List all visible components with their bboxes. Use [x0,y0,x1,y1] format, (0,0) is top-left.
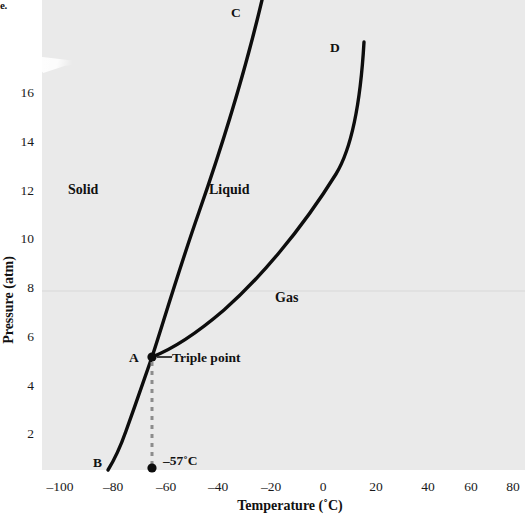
curve-d-vaporization [152,42,364,357]
ytick-label-10: 10 [21,231,35,246]
xtick-label-80: 80 [506,479,520,494]
curve-b-sublimation [108,357,152,470]
ytick-label-2: 2 [27,426,34,441]
triple-point-letter: A [129,350,139,365]
ytick-label-14: 14 [21,134,35,149]
curve-c-fusion [152,0,262,357]
ytick-label-4: 4 [27,378,34,393]
ytick-label-6: 6 [27,329,34,344]
xtick-label-0: 0 [320,479,327,494]
region-label-liquid: Liquid [209,182,250,197]
xtick-label--60: –60 [155,479,177,494]
xtick-label-60: 60 [464,479,478,494]
curve-label-b: B [93,455,102,470]
phase-diagram-svg: 16 14 12 10 8 6 4 2 Pressure (atm) –100 … [0,0,525,514]
region-label-solid: Solid [68,182,99,197]
triple-point-marker [147,352,156,361]
triple-point-axis-marker [147,463,156,472]
curve-label-d: D [330,40,340,55]
xtick-label-40: 40 [421,479,435,494]
x-axis-title: Temperature (˚C) [237,498,343,514]
region-label-gas: Gas [275,290,299,305]
curve-label-c: C [231,5,241,20]
xtick-label-20: 20 [369,479,383,494]
ytick-label-8: 8 [27,280,34,295]
xtick-label--100: –100 [46,479,74,494]
triple-point-label: Triple point [172,350,241,365]
xtick-label--20: –20 [260,479,282,494]
ytick-label-12: 12 [21,183,35,198]
ytick-label-16: 16 [21,85,35,100]
xtick-label--40: –40 [207,479,229,494]
phase-diagram-figure: e. 16 14 12 10 8 6 4 2 Pressure (atm) –1… [0,0,525,514]
xtick-label--80: –80 [102,479,124,494]
y-axis-title: Pressure (atm) [1,256,17,344]
triple-point-temperature-label: –57˚C [162,453,198,468]
